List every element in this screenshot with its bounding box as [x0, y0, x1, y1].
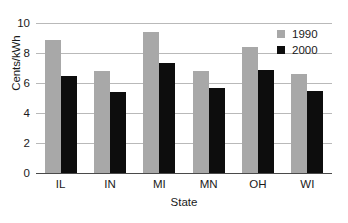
bar-oh-1990	[242, 47, 258, 173]
y-tick-label: 8	[6, 48, 30, 58]
x-tick-label-in: IN	[85, 177, 134, 191]
y-axis-tick-labels: 0246810	[6, 16, 30, 174]
bar-mi-1990	[143, 32, 159, 173]
x-tick-label-mn: MN	[184, 177, 233, 191]
y-tick-label: 4	[6, 108, 30, 118]
bar-wi-1990	[291, 74, 307, 173]
square-swatch-black-icon	[277, 46, 285, 54]
x-axis-title: State	[36, 196, 332, 208]
legend-label: 1990	[292, 27, 318, 41]
legend-entry-2000: 2000	[277, 43, 341, 58]
x-axis-line	[36, 173, 332, 174]
legend-entry-1990: 1990	[277, 27, 341, 42]
y-tick-label: 10	[6, 18, 30, 28]
bar-mn-1990	[193, 71, 209, 173]
y-tick-label: 2	[6, 138, 30, 148]
bar-in-1990	[94, 71, 110, 173]
bar-il-2000	[61, 76, 77, 174]
y-tick-label: 0	[6, 168, 30, 178]
bar-mi-2000	[159, 63, 175, 173]
bar-il-1990	[45, 40, 61, 174]
bar-oh-2000	[258, 70, 274, 174]
bar-group	[184, 23, 233, 173]
bar-group	[135, 23, 184, 173]
x-axis-tick-labels: ILINMIMNOHWI	[36, 177, 332, 193]
x-tick-label-mi: MI	[135, 177, 184, 191]
legend-label: 2000	[292, 43, 318, 57]
bar-wi-2000	[307, 91, 323, 174]
bar-group	[36, 23, 85, 173]
chart-legend: 19902000	[277, 27, 341, 59]
bar-group	[233, 23, 282, 173]
bar-group	[85, 23, 134, 173]
y-tick-label: 6	[6, 78, 30, 88]
square-swatch-gray-icon	[277, 30, 285, 38]
bar-in-2000	[110, 92, 126, 173]
bar-mn-2000	[209, 88, 225, 174]
x-tick-label-wi: WI	[283, 177, 332, 191]
x-tick-label-oh: OH	[233, 177, 282, 191]
x-tick-label-il: IL	[36, 177, 85, 191]
bar-chart-figure: Cents/kWh 0246810 ILINMIMNOHWI State 199…	[0, 0, 348, 223]
